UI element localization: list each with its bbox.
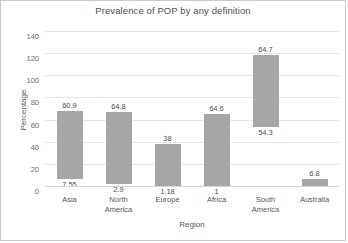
x-axis-line bbox=[45, 186, 339, 187]
bar-value-label-top: 64.6 bbox=[209, 104, 224, 113]
bar[interactable] bbox=[155, 144, 181, 186]
x-category-line: Europe bbox=[143, 195, 192, 205]
x-category-line: Asia bbox=[45, 195, 94, 205]
bar-value-label-top: 64.7 bbox=[258, 45, 273, 54]
bar[interactable] bbox=[253, 55, 279, 127]
bar[interactable] bbox=[57, 111, 83, 178]
bar-slot: 64.61 bbox=[192, 32, 241, 187]
x-category-label: Asia bbox=[45, 195, 94, 205]
bar-slot: 64.82.9 bbox=[94, 32, 143, 187]
bar-value-label-top: 6.8 bbox=[309, 169, 319, 178]
bar-slot: 381.18 bbox=[143, 32, 192, 187]
x-axis-category-labels: AsiaNorthAmericaEuropeAfricaSouthAmerica… bbox=[45, 191, 339, 223]
x-category-line: North bbox=[94, 195, 143, 205]
bar-slot: 64.754.3 bbox=[241, 32, 290, 187]
x-axis-title: Region bbox=[45, 220, 339, 229]
x-category-label: Europe bbox=[143, 195, 192, 205]
chart-container: Prevalence of POP by any definition Perc… bbox=[0, 0, 346, 241]
x-category-label: Australia bbox=[290, 195, 339, 205]
bar-slot: 6.8 bbox=[290, 32, 339, 187]
x-category-label: Africa bbox=[192, 195, 241, 205]
x-category-line: America bbox=[94, 205, 143, 215]
plot-area: 60.97.5564.82.9381.1864.6164.754.36.8 bbox=[45, 32, 339, 187]
bar[interactable] bbox=[106, 112, 132, 184]
bar-value-label-top: 60.9 bbox=[62, 101, 77, 110]
bar-value-label-bottom: 54.3 bbox=[258, 128, 273, 137]
bar-value-label-top: 64.8 bbox=[111, 102, 126, 111]
bar-value-label-bottom: 7.55 bbox=[62, 180, 77, 189]
x-category-label: SouthAmerica bbox=[241, 195, 290, 214]
x-category-line: South bbox=[241, 195, 290, 205]
bar-value-label-top: 38 bbox=[163, 134, 171, 143]
chart-title: Prevalence of POP by any definition bbox=[1, 5, 345, 16]
x-category-line: America bbox=[241, 205, 290, 215]
x-category-line: Africa bbox=[192, 195, 241, 205]
x-category-line: Australia bbox=[290, 195, 339, 205]
x-category-label: NorthAmerica bbox=[94, 195, 143, 214]
bar-slot: 60.97.55 bbox=[45, 32, 94, 187]
bar[interactable] bbox=[204, 114, 230, 186]
y-axis-tick-labels: 020406080100120140 bbox=[1, 32, 41, 187]
